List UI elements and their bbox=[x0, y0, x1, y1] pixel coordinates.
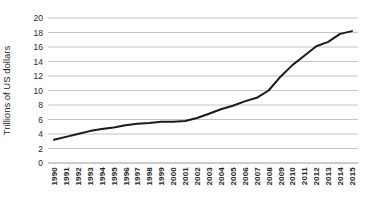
x-tick-label: 2001 bbox=[181, 167, 190, 186]
x-tick-label: 2003 bbox=[205, 167, 214, 186]
x-tick-label: 1995 bbox=[110, 167, 119, 186]
x-tick-label: 2006 bbox=[241, 167, 250, 186]
x-tick-label: 1994 bbox=[98, 167, 107, 186]
y-tick-label: 16 bbox=[34, 42, 44, 52]
y-tick-label: 8 bbox=[38, 100, 43, 110]
x-tick-label: 1996 bbox=[122, 167, 131, 186]
y-tick-label: 4 bbox=[38, 129, 43, 139]
x-tick-label: 2010 bbox=[288, 167, 297, 186]
y-axis-title: Trillions of US dollars bbox=[1, 46, 12, 136]
x-tick-label: 2014 bbox=[336, 167, 345, 186]
x-tick-label: 2013 bbox=[324, 167, 333, 186]
chart-canvas: 02468101214161820 1990199119921993199419… bbox=[0, 0, 381, 205]
x-tick-label: 1991 bbox=[62, 167, 71, 186]
y-tick-label: 0 bbox=[38, 158, 43, 168]
y-tick-label: 10 bbox=[34, 86, 44, 96]
line-chart-figure: 02468101214161820 1990199119921993199419… bbox=[0, 0, 381, 205]
x-tick-label: 2009 bbox=[277, 167, 286, 186]
x-tick-label: 2011 bbox=[300, 167, 309, 186]
x-tick-label: 1990 bbox=[50, 167, 59, 186]
x-tick-label: 2005 bbox=[229, 167, 238, 186]
y-tick-label: 18 bbox=[34, 28, 44, 38]
x-tick-label: 2012 bbox=[312, 167, 321, 186]
x-axis-tick-labels: 1990199119921993199419951996199719981999… bbox=[50, 167, 357, 186]
x-tick-label: 2004 bbox=[217, 167, 226, 186]
x-tick-label: 1993 bbox=[86, 167, 95, 186]
y-tick-label: 12 bbox=[34, 71, 44, 81]
x-tick-label: 1997 bbox=[133, 167, 142, 186]
y-tick-label: 2 bbox=[38, 144, 43, 154]
x-tick-label: 1992 bbox=[74, 167, 83, 186]
y-tick-label: 6 bbox=[38, 115, 43, 125]
x-tick-label: 2008 bbox=[265, 167, 274, 186]
x-tick-label: 2015 bbox=[348, 167, 357, 186]
y-tick-label: 20 bbox=[34, 13, 44, 23]
x-tick-label: 2002 bbox=[193, 167, 202, 186]
x-tick-label: 2000 bbox=[169, 167, 178, 186]
x-tick-label: 2007 bbox=[253, 167, 262, 186]
y-axis-tick-labels: 02468101214161820 bbox=[34, 13, 44, 168]
y-tick-label: 14 bbox=[34, 57, 44, 67]
plot-gridlines bbox=[48, 18, 358, 163]
x-tick-label: 1998 bbox=[145, 167, 154, 186]
x-tick-label: 1999 bbox=[157, 167, 166, 186]
